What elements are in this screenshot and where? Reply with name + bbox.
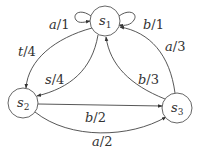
edge-s1-s1-a1 <box>75 12 91 22</box>
state-s2: s2 <box>8 88 38 118</box>
state-diagram: s1 s2 s3 a/1 b/1 t/4 s/4 b/2 a/2 b/3 a/3 <box>0 0 202 154</box>
label-b3: b/3 <box>138 72 159 87</box>
state-s3: s3 <box>162 93 192 123</box>
label-b1: b/1 <box>143 17 164 32</box>
label-t4: t/4 <box>18 44 36 59</box>
label-a3: a/3 <box>165 39 185 54</box>
state-s1: s1 <box>90 6 120 36</box>
edge-s1-s1-b1 <box>119 12 135 25</box>
edge-s2-s3-b2 <box>38 104 162 106</box>
label-a1: a/1 <box>49 17 69 32</box>
label-s4: s/4 <box>45 72 64 87</box>
label-b2: b/2 <box>85 110 106 125</box>
label-a2: a/2 <box>92 134 112 149</box>
